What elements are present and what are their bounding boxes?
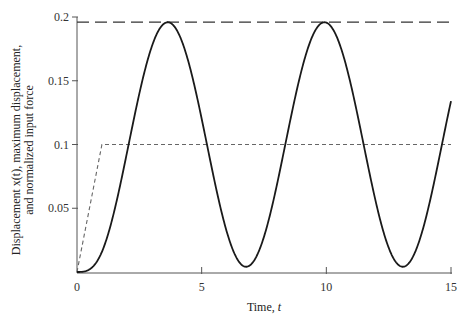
y-axis-label: Displacement x(t), maximum displacement,… xyxy=(9,45,36,255)
x-tick-label: 10 xyxy=(320,280,332,294)
y-tick-label: 0.2 xyxy=(54,10,69,24)
y-tick-label: 0.15 xyxy=(48,74,69,88)
input-force-series xyxy=(77,145,451,273)
y-tick-label: 0.05 xyxy=(48,201,69,215)
x-ticks: 051015 xyxy=(74,267,457,294)
y-tick-label: 0.1 xyxy=(54,138,69,152)
x-tick-label: 5 xyxy=(199,280,205,294)
y-ticks: 0.050.10.150.2 xyxy=(48,10,78,215)
y-axis-label-line1: Displacement x(t), maximum displacement, xyxy=(9,45,23,255)
chart-canvas: 0.050.10.150.2 051015 Time, t Displaceme… xyxy=(0,0,469,325)
x-tick-label: 0 xyxy=(74,280,80,294)
x-axis-label: Time, t xyxy=(247,300,282,314)
x-tick-label: 15 xyxy=(445,280,457,294)
axes: 0.050.10.150.2 051015 xyxy=(48,10,457,294)
x-axis-label-text: Time, xyxy=(247,300,278,314)
y-axis-label-line2: and normalized input force xyxy=(22,85,36,215)
displacement-series xyxy=(77,22,451,272)
